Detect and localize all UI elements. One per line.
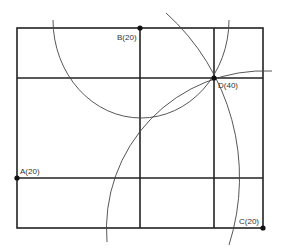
arc-centered-b <box>53 20 229 118</box>
construction-diagram: B(20) D(40) A(20) C(20) <box>0 0 283 250</box>
point-b <box>137 25 142 30</box>
label-b: B(20) <box>117 33 137 42</box>
point-d <box>211 75 216 80</box>
arc-centered-a <box>166 13 240 245</box>
point-a <box>14 175 19 180</box>
label-d: D(40) <box>218 81 238 90</box>
label-a: A(20) <box>20 167 40 176</box>
label-c: C(20) <box>239 217 259 226</box>
point-c <box>260 225 265 230</box>
